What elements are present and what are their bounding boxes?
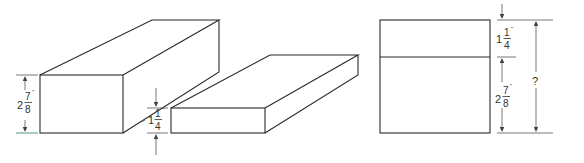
unknown-total-label: ? [532,75,538,87]
svg-text:": " [32,89,34,95]
flat-block-top-face [171,55,358,108]
tall-block-top-face [40,20,219,75]
svg-text:1: 1 [496,33,502,45]
flat-block [171,55,358,133]
tall-block-height-label: 2 7 8 " [17,89,34,115]
flat-block-front-face [171,108,265,133]
svg-text:7: 7 [503,85,509,96]
svg-text:": " [511,26,513,32]
svg-text:1: 1 [155,108,161,119]
svg-text:4: 4 [504,40,510,51]
flat-block-side-face [265,55,358,133]
svg-text:1: 1 [504,27,510,38]
svg-text:7: 7 [25,91,31,102]
svg-text:1: 1 [148,114,154,126]
elevation-total-dimension: ? [532,22,538,131]
svg-text:": " [510,83,512,89]
svg-text:4: 4 [155,121,161,132]
svg-text:2: 2 [17,99,23,111]
svg-text:8: 8 [25,104,31,115]
elevation-bottom-dimension: 2 7 8 " [495,59,512,131]
stacked-outline [380,20,490,133]
flat-block-height-label: 1 1 4 " [148,107,164,132]
elevation-top-dimension: 1 1 4 " [496,4,513,51]
tall-block [40,20,219,133]
svg-text:": " [162,107,164,113]
tall-block-front-face [40,75,123,133]
svg-text:8: 8 [503,98,509,109]
elevation-view [380,20,490,133]
diagram-canvas: 2 7 8 " 1 1 4 " 1 1 [0,0,584,163]
svg-text:2: 2 [495,93,501,105]
